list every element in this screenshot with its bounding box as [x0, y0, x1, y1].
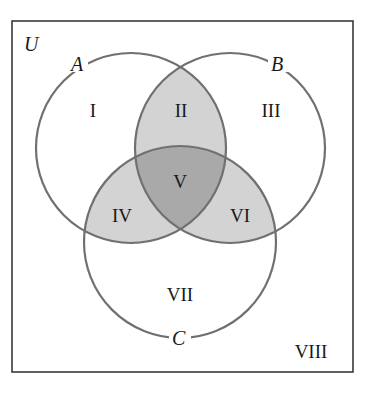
region-label-VI: VI	[230, 205, 250, 226]
region-label-IV: IV	[112, 205, 132, 226]
universe-label: U	[24, 33, 40, 55]
venn-diagram: U A B C I II III IV V VI VII VIII	[0, 0, 371, 397]
set-label-A: A	[69, 53, 84, 75]
region-label-III: III	[262, 100, 281, 121]
region-label-V: V	[173, 171, 187, 192]
set-label-C: C	[172, 327, 186, 349]
region-label-II: II	[175, 100, 188, 121]
region-label-VII: VII	[167, 284, 193, 305]
region-label-VIII: VIII	[295, 341, 328, 362]
set-label-B: B	[271, 53, 283, 75]
region-label-I: I	[90, 100, 96, 121]
